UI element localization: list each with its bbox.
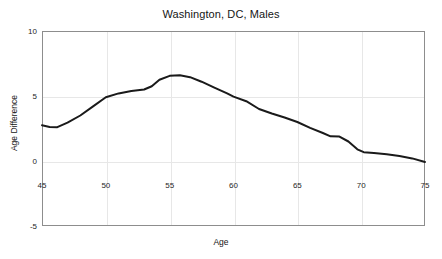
data-series-line [42,31,425,226]
x-tick-label: 75 [421,181,430,190]
y-tick-label: -5 [12,222,37,231]
x-tick-label: 55 [165,181,174,190]
x-tick-label: 70 [357,181,366,190]
x-tick-label: 50 [101,181,110,190]
chart-figure: Washington, DC, Males 45505560657075 -50… [0,0,442,259]
x-tick-label: 45 [38,181,47,190]
y-axis-title: Age Difference [9,63,19,183]
y-tick-label: 10 [12,27,37,36]
x-tick-label: 60 [229,181,238,190]
chart-title: Washington, DC, Males [0,8,442,20]
x-axis-title: Age [0,237,442,247]
x-tick-label: 65 [293,181,302,190]
